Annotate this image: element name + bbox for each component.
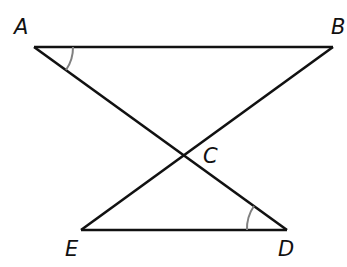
point-label-C: C: [203, 144, 218, 168]
angle-mark-A: [66, 47, 73, 70]
geometry-diagram: A B C E D: [0, 0, 347, 267]
segment-AD: [34, 47, 287, 230]
point-label-A: A: [12, 15, 28, 39]
point-label-E: E: [65, 237, 79, 261]
segment-BE: [81, 47, 333, 230]
point-label-D: D: [278, 237, 294, 261]
point-label-B: B: [331, 15, 345, 39]
angle-mark-D: [247, 206, 254, 230]
